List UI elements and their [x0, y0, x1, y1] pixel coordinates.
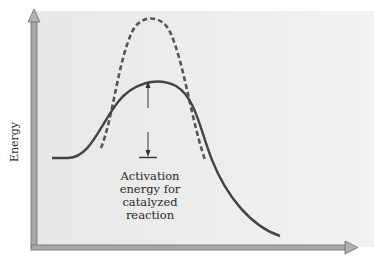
annotation-line: reaction	[112, 209, 188, 222]
y-axis-label: Energy	[4, 112, 24, 172]
y-axis-label-text: Energy	[8, 122, 21, 162]
activation-energy-label: Activation energy for catalyzed reaction	[112, 170, 188, 222]
plot-panel	[36, 11, 374, 247]
energy-diagram	[0, 0, 374, 263]
